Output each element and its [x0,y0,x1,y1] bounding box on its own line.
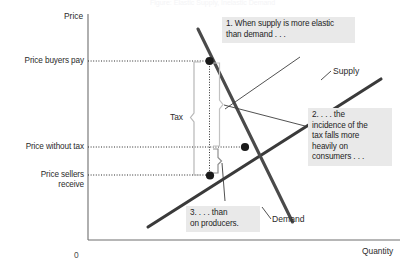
label-price-sellers-receive-line2: receive [0,180,84,190]
point-price-buyers-pay [205,57,213,65]
label-demand-curve: Demand [272,214,304,224]
callout-1-line-1: 1. When supply is more elastic [226,19,351,30]
callout-2-line-5: consumers . . . [312,152,388,163]
callout-3-line-2: on producers. [190,219,256,230]
figure-canvas: Figure: Elastic Supply, Inelastic Demand… [0,0,405,272]
callout-2-line-4: heavily on [312,142,388,153]
callout-2-line-3: tax falls more [312,131,388,142]
leader-line-callout-2 [224,105,305,126]
x-axis-label: Quantity [362,246,393,256]
label-supply-curve: Supply [333,66,359,76]
label-price-sellers-receive-line1: Price sellers [0,170,84,180]
callout-2-line-1: 2. . . . the [312,110,388,121]
callout-1-line-2: than demand . . . [226,30,351,41]
label-price-without-tax: Price without tax [0,142,84,152]
label-tax: Tax [170,112,183,122]
leader-line-callout-3 [222,163,225,201]
origin-label: 0 [74,250,79,260]
y-axis-label: Price [64,11,83,21]
point-equilibrium-without-tax [241,143,249,151]
producer-share-brace [213,149,222,173]
callout-1: 1. When supply is more elastic than dema… [222,17,355,43]
callout-2: 2. . . . the incidence of the tax falls … [308,108,392,166]
leader-line-supply-label [321,71,331,80]
leader-line-demand-label [262,207,271,219]
tax-brace [191,62,202,175]
callout-3-line-1: 3. . . . than [190,208,256,219]
point-price-sellers-receive [206,171,214,179]
figure-title: Figure: Elastic Supply, Inelastic Demand [150,0,275,6]
callout-3: 3. . . . than on producers. [186,206,260,232]
callout-2-line-2: incidence of the [312,121,388,132]
leader-line-callout-1 [225,57,300,109]
label-price-buyers-pay: Price buyers pay [0,56,84,66]
